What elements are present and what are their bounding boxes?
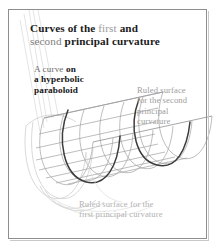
- curve-annotation-line-2: a hyperbolic: [34, 74, 122, 84]
- title-line-1: Curves of the first and: [30, 22, 202, 35]
- ruled-second-line-1: Ruled surface: [137, 85, 207, 95]
- ruled-first-line-1: Ruled surface for the: [79, 199, 203, 209]
- title-line2-bold: principal curvature: [65, 35, 160, 47]
- curve-annotation: A curve on a hyperbolic paraboloid: [34, 64, 122, 95]
- title-line1-bold-a: Curves of the: [30, 22, 98, 34]
- title-line-2: second principal curvature: [30, 35, 202, 48]
- figure-title: Curves of the first and second principal…: [30, 22, 202, 47]
- ruled-second-line-2: for the second: [137, 95, 207, 105]
- curve-annotation-line-1: A curve on: [34, 64, 122, 74]
- curve-annotation-gray: A curve: [34, 64, 66, 74]
- ruled-first-line-2: first principal curvature: [79, 209, 203, 219]
- ruled-second-line-3: principal: [137, 106, 207, 116]
- title-line1-bold-b: and: [117, 22, 138, 34]
- curve-annotation-line-3: paraboloid: [34, 85, 122, 95]
- title-line1-gray: first: [98, 22, 117, 34]
- ruled-second-line-4: curvature: [137, 116, 207, 126]
- figure-panel: Curves of the first and second principal…: [0, 0, 217, 249]
- ruled-surface-second-annotation: Ruled surface for the second principal c…: [137, 85, 207, 127]
- ruled-surface-first-annotation: Ruled surface for the first principal cu…: [79, 199, 203, 220]
- title-line2-gray: second: [30, 35, 65, 47]
- curve-annotation-bold-on: on: [66, 64, 76, 74]
